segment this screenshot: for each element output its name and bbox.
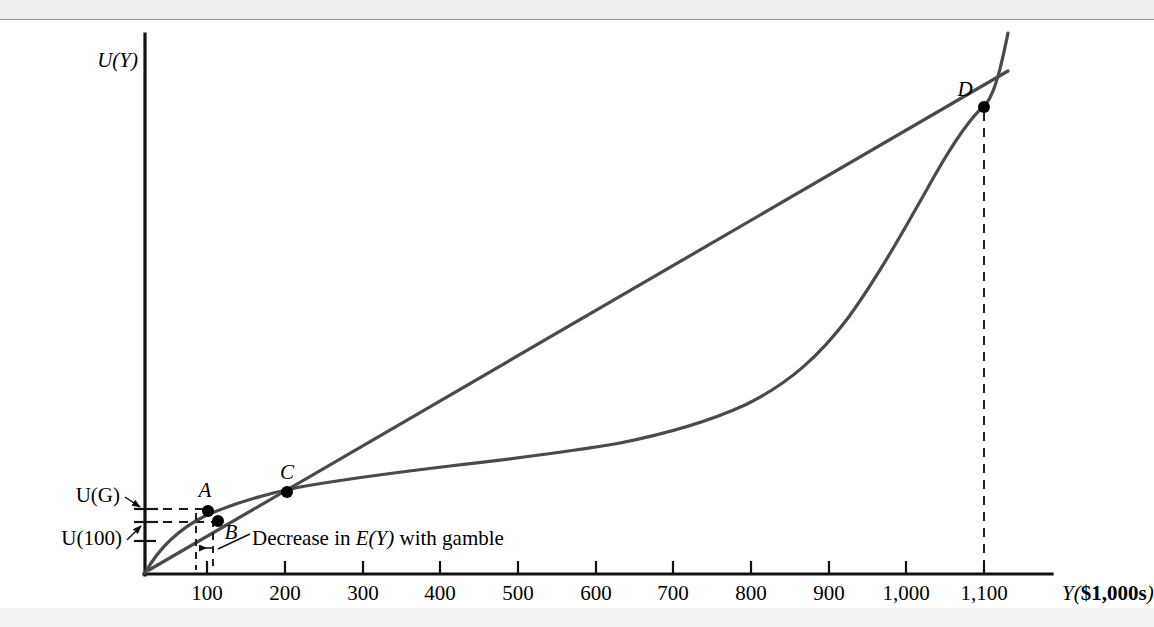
x-tick-label-800: 800 xyxy=(735,581,767,605)
x-tick-label-200: 200 xyxy=(269,581,301,605)
x-axis-title-paren-close: ) xyxy=(1146,581,1154,605)
expected-utility-chord xyxy=(149,71,1008,570)
point-C-marker xyxy=(281,486,293,498)
annotation-text-before: Decrease in xyxy=(252,526,356,550)
decrease-annotation: Decrease in E(Y) with gamble xyxy=(252,526,504,550)
point-B-marker xyxy=(212,515,224,527)
annotation-text-italic: E(Y) xyxy=(355,526,395,550)
x-tick-label-500: 500 xyxy=(502,581,534,605)
x-tick-label-400: 400 xyxy=(424,581,456,605)
point-B-label: B xyxy=(225,520,238,544)
x-axis-title: Y($1,000s) xyxy=(1062,581,1154,605)
point-D-label: D xyxy=(956,77,972,101)
figure-root: 100 200 300 400 500 600 700 800 900 1,00… xyxy=(0,0,1154,627)
x-tick-label-1100: 1,100 xyxy=(960,581,1007,605)
x-tick-labels: 100 200 300 400 500 600 700 800 900 1,00… xyxy=(191,581,1007,605)
u-gamble-leader xyxy=(125,497,140,507)
point-A-marker xyxy=(202,505,214,517)
point-C-label: C xyxy=(280,460,295,484)
utility-curve xyxy=(145,33,1008,573)
x-tick-label-900: 900 xyxy=(813,581,845,605)
point-A-label: A xyxy=(197,478,212,502)
utility-function-chart: 100 200 300 400 500 600 700 800 900 1,00… xyxy=(0,0,1154,627)
x-tick-label-1000: 1,000 xyxy=(882,581,929,605)
y-axis-title: U(Y) xyxy=(97,48,138,72)
x-tick-label-100: 100 xyxy=(191,581,223,605)
x-tick-label-300: 300 xyxy=(347,581,379,605)
x-tick-marks xyxy=(207,561,984,574)
x-tick-label-700: 700 xyxy=(657,581,689,605)
x-axis-title-units: $1,000s xyxy=(1081,581,1147,605)
u-hundred-leader xyxy=(127,526,141,540)
point-D-marker xyxy=(978,101,990,113)
annotation-text-after: with gamble xyxy=(394,526,504,550)
u-hundred-label: U(100) xyxy=(61,526,122,550)
u-gamble-label: U(G) xyxy=(76,483,120,507)
x-tick-label-600: 600 xyxy=(580,581,612,605)
